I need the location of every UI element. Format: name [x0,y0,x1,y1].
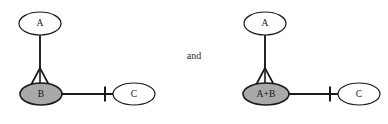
right-node-c-label: C [356,89,363,99]
left-node-a-label: A [36,18,43,28]
left-node-b[interactable]: B [20,83,62,105]
left-node-a[interactable]: A [19,12,61,35]
figure-canvas: A B C and [0,0,388,124]
left-node-b-label: B [38,89,45,99]
right-diagram: A A+B C [243,12,380,105]
right-node-ab[interactable]: A+B [243,83,289,105]
right-node-c[interactable]: C [338,83,380,105]
left-generalization-edge[interactable] [32,35,49,84]
right-node-a[interactable]: A [244,12,286,35]
right-node-a-label: A [261,18,268,28]
left-node-c[interactable]: C [113,83,155,105]
left-node-c-label: C [131,89,138,99]
right-generalization-edge[interactable] [257,35,274,84]
right-association-edge[interactable] [289,87,338,102]
left-association-edge[interactable] [62,87,113,102]
conjunction-label: and [187,50,201,61]
right-node-ab-label: A+B [256,89,275,99]
diagram-surface: A B C and [0,0,388,124]
left-diagram: A B C [19,12,155,105]
